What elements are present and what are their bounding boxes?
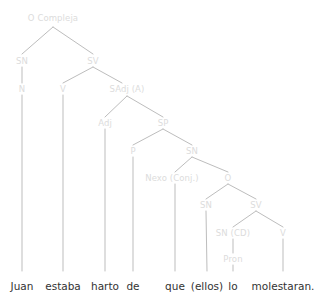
branch-o-subordinate-to-sn-ellos [206, 184, 228, 199]
branch-sadj-a-to-sp [127, 96, 163, 117]
node-sn-ellos: SN [200, 201, 212, 210]
branch-sv-main-to-v-estaba [63, 67, 93, 83]
branch-sv-main-to-sadj-a [93, 67, 122, 83]
branch-sp-to-sn-subordinate [163, 129, 192, 145]
branch-sn-subordinate-to-nexo-conj [175, 157, 192, 172]
node-o-compleja: O Compleja [28, 14, 78, 23]
leaf-que: que [165, 281, 185, 292]
branch-sn-ellos-to-leaf-ellos [206, 211, 207, 271]
node-sadj-a: SAdj (A) [110, 85, 145, 94]
node-v-estaba: V [60, 85, 66, 94]
node-sv-main: SV [87, 57, 98, 66]
node-p-de: P [130, 147, 135, 156]
node-sn-subject: SN [16, 57, 28, 66]
node-nexo-conj: Nexo (Conj.) [145, 174, 199, 183]
node-sv-subordinate: SV [250, 201, 261, 210]
branch-sadj-a-to-adj-harto [105, 96, 127, 117]
leaf-lo: lo [228, 281, 237, 292]
leaf-ellos: (ellos) [191, 281, 223, 292]
node-sn-cd: SN (CD) [216, 229, 250, 238]
branch-o-subordinate-to-sv-subordinate [228, 184, 256, 199]
leaf-molestaran: molestaran. [252, 281, 315, 292]
branch-sn-subordinate-to-o-subordinate [192, 157, 228, 172]
node-pron-lo: Pron [223, 255, 242, 264]
branch-sv-subordinate-to-v-molestaran [256, 211, 283, 227]
branch-o-compleja-to-sv-main [53, 27, 93, 54]
leaf-harto: harto [91, 281, 119, 292]
node-o-subordinate: O [225, 174, 232, 183]
node-v-molestaran: V [280, 229, 286, 238]
branch-sv-subordinate-to-sn-cd [233, 211, 256, 227]
syntax-tree-diagram: O ComplejaSNSVNVSAdj (A)AdjSPPSNNexo (Co… [0, 0, 324, 307]
branch-o-compleja-to-sn-subject [22, 27, 53, 54]
node-sn-subordinate: SN [186, 147, 198, 156]
node-n-juan: N [19, 85, 25, 94]
tree-branches-layer [0, 0, 324, 307]
leaf-de: de [126, 281, 139, 292]
node-sp: SP [158, 119, 169, 128]
node-adj-harto: Adj [98, 119, 112, 128]
leaf-juan: Juan [11, 281, 34, 292]
leaf-estaba: estaba [45, 281, 81, 292]
branch-sp-to-p-de [133, 129, 163, 145]
